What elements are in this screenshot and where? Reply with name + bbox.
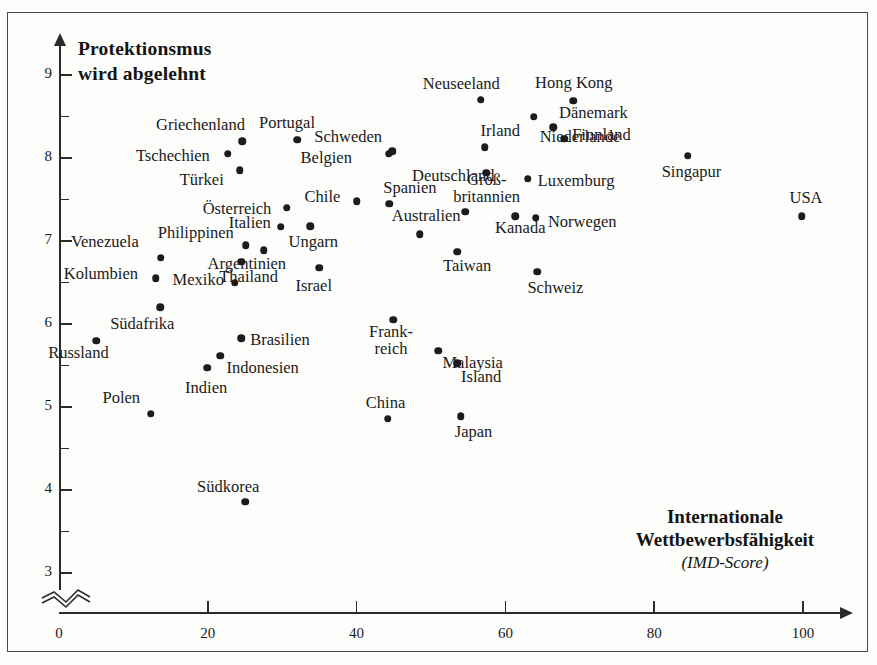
y-tick-8 xyxy=(60,157,72,159)
point-label: Island xyxy=(461,368,501,386)
data-point[interactable] xyxy=(532,214,540,222)
data-point[interactable] xyxy=(384,415,392,423)
data-point[interactable] xyxy=(798,212,806,220)
x-tick-20 xyxy=(207,601,209,612)
data-point[interactable] xyxy=(147,410,155,418)
data-point[interactable] xyxy=(316,264,324,272)
point-label: Groß-britannien xyxy=(453,171,520,206)
point-label: Österreich xyxy=(203,200,272,218)
data-point[interactable] xyxy=(293,136,301,144)
y-tick-9 xyxy=(60,74,72,76)
data-point[interactable] xyxy=(534,268,542,276)
point-label: Chile xyxy=(305,188,341,206)
y-tick-5 xyxy=(60,406,72,408)
point-label: USA xyxy=(790,189,823,207)
data-point[interactable] xyxy=(156,304,164,312)
point-label: Irland xyxy=(481,122,520,140)
point-label: Israel xyxy=(295,277,332,295)
data-point[interactable] xyxy=(569,97,577,105)
y-tick-label-6: 6 xyxy=(26,314,52,331)
y-tick-6 xyxy=(60,323,72,325)
point-label: Schweden xyxy=(314,128,382,146)
data-point[interactable] xyxy=(260,246,268,254)
data-point[interactable] xyxy=(217,352,225,360)
data-point[interactable] xyxy=(241,498,249,506)
y-tick-minor xyxy=(60,531,69,533)
y-axis-break-icon xyxy=(40,578,100,612)
data-point[interactable] xyxy=(236,167,244,175)
point-label: Brasilien xyxy=(250,331,310,349)
point-label: Polen xyxy=(103,389,141,407)
x-tick-40 xyxy=(356,601,358,612)
y-tick-label-9: 9 xyxy=(26,65,52,82)
data-point[interactable] xyxy=(152,275,160,283)
y-axis-title: Protektionsmus wird abgelehnt xyxy=(78,36,212,86)
point-label: Venezuela xyxy=(71,233,139,251)
x-tick-label-100: 100 xyxy=(783,625,823,642)
point-label: Japan xyxy=(455,423,493,441)
point-label-line: Frank- xyxy=(369,323,413,341)
point-label: Kanada xyxy=(495,219,545,237)
data-point[interactable] xyxy=(157,254,165,262)
point-label: Südkorea xyxy=(197,478,259,496)
y-tick-label-7: 7 xyxy=(26,231,52,248)
data-point[interactable] xyxy=(307,222,315,230)
data-point[interactable] xyxy=(461,208,469,216)
data-point[interactable] xyxy=(481,143,489,151)
data-point[interactable] xyxy=(684,152,692,160)
point-label: Indonesien xyxy=(226,359,298,377)
y-tick-label-4: 4 xyxy=(26,480,52,497)
point-label: Australien xyxy=(392,207,461,225)
point-label-line: britannien xyxy=(453,188,520,206)
x-axis-title-line2: Wettbewerbsfähigkeit xyxy=(600,528,850,551)
data-point[interactable] xyxy=(238,334,246,342)
data-point[interactable] xyxy=(453,248,461,256)
x-axis-line xyxy=(59,612,842,614)
x-tick-label-60: 60 xyxy=(485,625,525,642)
y-tick-label-3: 3 xyxy=(26,563,52,580)
x-axis-title: Internationale Wettbewerbsfähigkeit (IMD… xyxy=(600,505,850,574)
data-point[interactable] xyxy=(530,113,538,121)
scatter-plot-area: 3456789020406080100 Protektionsmus wird … xyxy=(0,0,877,665)
x-axis-arrow-icon xyxy=(840,607,853,619)
point-label: Kolumbien xyxy=(64,265,138,283)
point-label: Luxemburg xyxy=(538,172,615,190)
data-point[interactable] xyxy=(524,175,532,183)
point-label-line: reich xyxy=(369,340,413,358)
data-point[interactable] xyxy=(416,231,424,239)
x-tick-100 xyxy=(802,601,804,612)
point-label: China xyxy=(366,394,405,412)
point-label: Griechenland xyxy=(156,116,245,134)
data-point[interactable] xyxy=(203,364,211,372)
data-point[interactable] xyxy=(353,197,361,205)
data-point[interactable] xyxy=(435,347,443,355)
data-point[interactable] xyxy=(224,150,232,158)
data-point[interactable] xyxy=(277,223,285,231)
y-tick-3 xyxy=(60,572,72,574)
data-point[interactable] xyxy=(453,359,461,367)
data-point[interactable] xyxy=(242,241,250,249)
point-label: Türkei xyxy=(180,171,224,189)
point-label: Niederlande xyxy=(540,128,621,146)
chart-page: 3456789020406080100 Protektionsmus wird … xyxy=(0,0,877,665)
point-label: Indien xyxy=(185,379,227,397)
point-label: Norwegen xyxy=(548,213,617,231)
data-point[interactable] xyxy=(238,138,246,146)
x-tick-60 xyxy=(505,601,507,612)
x-axis-title-sub: (IMD-Score) xyxy=(600,551,850,574)
point-label: Schweiz xyxy=(527,279,583,297)
x-tick-80 xyxy=(653,601,655,612)
point-label: Singapur xyxy=(662,163,722,181)
point-label: Belgien xyxy=(301,149,352,167)
data-point[interactable] xyxy=(385,150,393,158)
data-point[interactable] xyxy=(457,412,465,420)
point-label: Portugal xyxy=(259,114,315,132)
y-axis-title-line2: wird abgelehnt xyxy=(78,61,212,86)
point-label: Philippinen xyxy=(158,224,234,242)
data-point[interactable] xyxy=(283,204,291,212)
point-label: Taiwan xyxy=(443,257,491,275)
point-label: Neuseeland xyxy=(423,75,500,93)
y-tick-label-8: 8 xyxy=(26,148,52,165)
point-label: Tschechien xyxy=(136,147,210,165)
data-point[interactable] xyxy=(477,96,485,104)
